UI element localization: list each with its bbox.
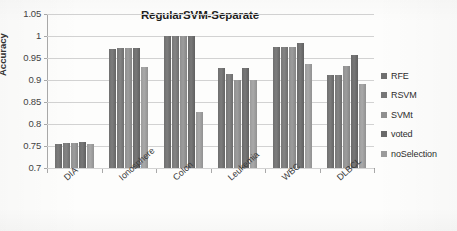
bar[interactable] <box>79 142 86 168</box>
bar[interactable] <box>188 36 195 168</box>
bar[interactable] <box>343 66 350 168</box>
legend-label: voted <box>391 129 413 139</box>
legend-item[interactable]: voted <box>381 125 457 145</box>
bar[interactable] <box>196 112 203 168</box>
bar[interactable] <box>359 84 366 168</box>
y-tick-label: 1.05 <box>0 8 41 19</box>
bar[interactable] <box>164 36 171 168</box>
bar[interactable] <box>125 48 132 168</box>
bar-group <box>265 14 320 168</box>
x-tick-mark <box>265 169 266 173</box>
bar[interactable] <box>226 74 233 168</box>
bar[interactable] <box>335 75 342 168</box>
legend-label: RFE <box>391 71 409 81</box>
x-tick-mark <box>211 169 212 173</box>
x-tick-mark <box>374 169 375 173</box>
legend-swatch-icon <box>381 92 387 98</box>
chart-root: RegularSVM-Separate Accuracy 1.0510.950.… <box>0 0 457 231</box>
legend-item[interactable]: RFE <box>381 66 457 86</box>
y-tick-label: 1 <box>0 30 41 41</box>
plot-area <box>47 14 374 168</box>
legend-label: SVMt <box>391 110 413 120</box>
legend-swatch-icon <box>381 151 387 157</box>
legend-swatch-icon <box>381 73 387 79</box>
bar[interactable] <box>297 43 304 168</box>
bar[interactable] <box>351 55 358 168</box>
legend-label: noSelection <box>391 149 437 159</box>
x-tick-mark <box>102 169 103 173</box>
y-tick-label: 0.75 <box>0 140 41 151</box>
bar-group <box>47 14 102 168</box>
bar[interactable] <box>289 47 296 168</box>
x-tick-mark <box>320 169 321 173</box>
bar[interactable] <box>180 36 187 168</box>
legend-swatch-icon <box>381 112 387 118</box>
bar[interactable] <box>109 49 116 168</box>
bar[interactable] <box>87 144 94 168</box>
y-tick-label: 0.8 <box>0 118 41 129</box>
chart-legend: RFERSVMSVMtvotednoSelection <box>381 66 457 164</box>
x-tick-mark <box>156 169 157 173</box>
bar-group <box>211 14 266 168</box>
bar-group <box>102 14 157 168</box>
bar[interactable] <box>281 47 288 168</box>
bar-group <box>320 14 375 168</box>
bar[interactable] <box>234 80 241 168</box>
bar[interactable] <box>305 64 312 168</box>
y-tick-label: 0.85 <box>0 96 41 107</box>
bar-group <box>156 14 211 168</box>
legend-label: RSVM <box>391 90 417 100</box>
bar[interactable] <box>242 68 249 168</box>
y-tick-label: 0.95 <box>0 52 41 63</box>
bar[interactable] <box>218 68 225 168</box>
bar[interactable] <box>63 143 70 168</box>
legend-item[interactable]: RSVM <box>381 86 457 106</box>
legend-item[interactable]: SVMt <box>381 105 457 125</box>
bar[interactable] <box>133 48 140 168</box>
bar[interactable] <box>117 48 124 168</box>
bar[interactable] <box>327 75 334 168</box>
y-tick-label: 0.9 <box>0 74 41 85</box>
bar[interactable] <box>273 47 280 168</box>
y-tick-label: 0.7 <box>0 162 41 173</box>
bar[interactable] <box>55 144 62 168</box>
legend-swatch-icon <box>381 131 387 137</box>
x-tick-mark <box>47 169 48 173</box>
bar[interactable] <box>172 36 179 168</box>
legend-item[interactable]: noSelection <box>381 144 457 164</box>
